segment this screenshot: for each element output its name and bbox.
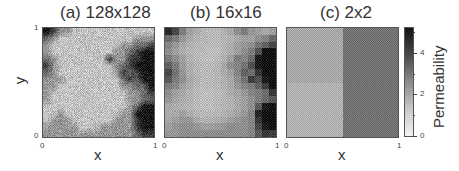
heatmap-panel-b xyxy=(164,27,277,138)
cbar-tick-0 xyxy=(413,136,417,137)
heatmap-b-canvas xyxy=(165,28,276,137)
x-axis-label-b: x xyxy=(216,146,224,163)
cbar-tick-4 xyxy=(413,53,417,54)
cbar-tick-2 xyxy=(413,94,417,95)
heatmap-c-canvas xyxy=(287,28,398,137)
cbar-label-4: 4 xyxy=(420,48,424,57)
x-tick-b-1: 1 xyxy=(275,141,279,150)
x-axis-label-a: x xyxy=(94,146,102,163)
panel-b-title: (b) 16x16 xyxy=(190,3,262,23)
cbar-tick-3 xyxy=(413,74,415,75)
colorbar xyxy=(404,27,414,137)
x-tick-b-0: 0 xyxy=(162,141,166,150)
heatmap-panel-a xyxy=(42,27,155,138)
panel-a-title: (a) 128x128 xyxy=(60,3,151,23)
y-axis-label: y xyxy=(11,77,28,85)
x-tick-a-0: 0 xyxy=(40,141,44,150)
panel-c-title: (c) 2x2 xyxy=(320,3,372,23)
cbar-tick-5 xyxy=(413,32,415,33)
cbar-label-0: 0 xyxy=(420,131,424,140)
heatmap-a-canvas xyxy=(43,28,154,137)
y-tick-0: 0 xyxy=(34,131,38,140)
x-tick-c-1: 1 xyxy=(397,141,401,150)
cbar-tick-1 xyxy=(413,115,415,116)
y-tick-1: 1 xyxy=(34,23,38,32)
colorbar-title: Permeability xyxy=(430,45,447,128)
cbar-label-2: 2 xyxy=(420,89,424,98)
x-tick-a-1: 1 xyxy=(153,141,157,150)
x-tick-c-0: 0 xyxy=(284,141,288,150)
x-axis-label-c: x xyxy=(338,146,346,163)
heatmap-panel-c xyxy=(286,27,399,138)
